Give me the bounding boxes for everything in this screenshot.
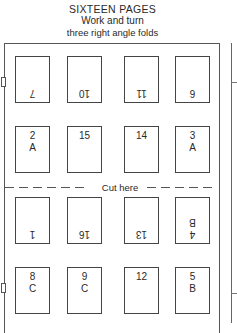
page-16: 16: [67, 197, 102, 244]
page-12: 12: [124, 267, 159, 314]
edge-tick: [231, 82, 237, 83]
gripper-tab-top: [1, 77, 6, 87]
page-11: 11: [124, 56, 159, 103]
cut-line: Cut here: [5, 182, 220, 194]
signature-letter: A: [176, 142, 209, 153]
page-2: 2 A: [15, 126, 50, 173]
page-number: 6: [176, 88, 209, 99]
page-10: 10: [67, 56, 102, 103]
signature-letter: B: [176, 217, 209, 228]
page-number: 4: [176, 229, 209, 240]
gripper-tab-bottom: [1, 283, 6, 293]
diagram-title: SIXTEEN PAGES: [0, 3, 225, 15]
diagram-subtitle: Work and turn: [0, 15, 225, 26]
page-number: 12: [125, 271, 158, 282]
page-14: 14: [124, 126, 159, 173]
edge-tick: [231, 293, 237, 294]
page-number: 9: [68, 271, 101, 282]
signature-letter: C: [68, 283, 101, 294]
page-8: 8 C: [15, 267, 50, 314]
page-1: 1: [15, 197, 50, 244]
signature-letter: B: [176, 283, 209, 294]
page-number: 14: [125, 130, 158, 141]
page-number: 2: [16, 130, 49, 141]
page-number: 5: [176, 271, 209, 282]
page-number: 11: [125, 88, 158, 99]
page-number: 3: [176, 130, 209, 141]
page-number: 1: [16, 229, 49, 240]
page-number: 13: [125, 229, 158, 240]
page-number: 15: [68, 130, 101, 141]
cut-line-label: Cut here: [95, 182, 145, 193]
page-7: 7: [15, 56, 50, 103]
page-number: 7: [16, 88, 49, 99]
adjacent-sheet-edge: [231, 43, 232, 323]
signature-letter: C: [16, 283, 49, 294]
diagram-caption: three right angle folds: [0, 27, 225, 38]
page-6: 6: [175, 56, 210, 103]
page-13: 13: [124, 197, 159, 244]
page-15: 15: [67, 126, 102, 173]
signature-letter: A: [16, 142, 49, 153]
page-3: 3 A: [175, 126, 210, 173]
page-5: 5 B: [175, 267, 210, 314]
page-number: 8: [16, 271, 49, 282]
page-number: 16: [68, 229, 101, 240]
page-4: 4 B: [175, 197, 210, 244]
page-9: 9 C: [67, 267, 102, 314]
page-number: 10: [68, 88, 101, 99]
